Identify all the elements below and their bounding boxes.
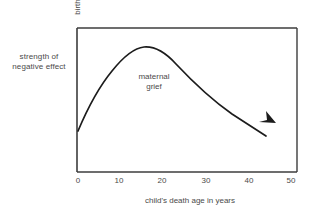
figure-canvas: strength of negative effect birth matern… [0,0,318,217]
curve-annotation-line2: grief [118,82,190,92]
curve-arrowhead [259,111,276,123]
axes-frame [77,28,297,172]
x-tick-label: 0 [68,176,88,185]
y-axis-label: strength of negative effect [6,52,72,72]
x-tick-label: 30 [196,176,216,185]
x-tick-label: 50 [281,176,301,185]
x-tick-label: 40 [239,176,259,185]
birth-label: birth [73,0,83,27]
curve-annotation: maternal grief [118,72,190,92]
curve-annotation-line1: maternal [118,72,190,82]
x-axis-label: child's death age in years [90,196,290,206]
x-tick-label: 20 [152,176,172,185]
y-axis-label-line1: strength of [6,52,72,62]
y-axis-label-line2: negative effect [6,62,72,72]
x-tick-label: 10 [109,176,129,185]
